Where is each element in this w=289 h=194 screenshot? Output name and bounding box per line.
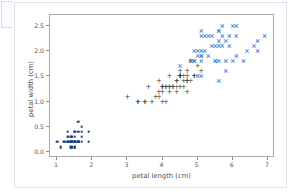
data-point-setosa <box>73 141 76 144</box>
data-point-setosa <box>70 141 73 144</box>
data-point-versicolor: + <box>177 73 183 80</box>
y-tick <box>46 101 49 102</box>
data-point-virginica: × <box>234 33 239 40</box>
data-point-virginica: × <box>223 68 228 75</box>
x-tick <box>126 157 127 160</box>
data-point-virginica: × <box>202 48 207 55</box>
x-tick-label: 1 <box>54 161 58 168</box>
x-tick <box>56 157 57 160</box>
data-point-versicolor: + <box>198 68 204 75</box>
data-point-virginica: × <box>202 33 207 40</box>
data-point-versicolor: + <box>184 78 190 85</box>
data-point-setosa <box>66 141 69 144</box>
data-point-setosa <box>73 141 76 144</box>
data-point-virginica: × <box>188 58 193 65</box>
data-point-setosa <box>73 146 76 149</box>
data-point-versicolor: + <box>156 93 162 100</box>
data-point-versicolor: + <box>188 58 194 65</box>
y-tick-label: 2.5 <box>27 22 44 29</box>
data-point-virginica: × <box>177 63 182 70</box>
data-point-versicolor: + <box>160 83 166 90</box>
notebook-output-cell: ++++++++++++++++++++++++++++++++++++++++… <box>0 0 289 194</box>
data-point-setosa <box>73 146 76 149</box>
data-point-setosa <box>87 141 90 144</box>
data-point-versicolor: + <box>181 83 187 90</box>
data-point-virginica: × <box>227 33 232 40</box>
data-point-virginica: × <box>216 28 221 35</box>
y-tick <box>46 75 49 76</box>
data-point-virginica: × <box>251 43 256 50</box>
data-point-virginica: × <box>195 73 200 80</box>
y-tick-label: 0.0 <box>27 147 44 154</box>
data-point-setosa <box>73 131 76 134</box>
data-point-virginica: × <box>198 53 203 60</box>
data-point-versicolor: + <box>174 88 180 95</box>
data-point-versicolor: + <box>184 68 190 75</box>
data-point-setosa <box>70 141 73 144</box>
x-tick-label: 5 <box>195 161 199 168</box>
data-point-versicolor: + <box>177 73 183 80</box>
data-point-setosa <box>73 141 76 144</box>
data-point-versicolor: + <box>153 93 159 100</box>
data-point-setosa <box>70 136 73 139</box>
data-point-virginica: × <box>198 33 203 40</box>
data-point-virginica: × <box>216 38 221 45</box>
data-point-setosa <box>73 141 76 144</box>
data-point-setosa <box>73 131 76 134</box>
data-point-setosa <box>77 141 80 144</box>
data-point-virginica: × <box>205 53 210 60</box>
data-point-versicolor: + <box>163 83 169 90</box>
y-tick <box>46 50 49 51</box>
data-point-versicolor: + <box>170 83 176 90</box>
data-point-virginica: × <box>195 53 200 60</box>
data-point-versicolor: + <box>188 78 194 85</box>
data-point-virginica: × <box>262 33 267 40</box>
data-point-setosa <box>73 141 76 144</box>
data-point-versicolor: + <box>170 83 176 90</box>
x-tick <box>162 157 163 160</box>
data-point-versicolor: + <box>142 98 148 105</box>
data-point-setosa <box>77 120 80 123</box>
x-tick-label: 2 <box>89 161 93 168</box>
data-point-versicolor: + <box>177 73 183 80</box>
data-point-versicolor: + <box>160 88 166 95</box>
data-point-versicolor: + <box>167 83 173 90</box>
data-point-virginica: × <box>198 28 203 35</box>
data-point-virginica: × <box>223 58 228 65</box>
data-point-virginica: × <box>191 58 196 65</box>
data-point-setosa <box>73 131 76 134</box>
data-point-versicolor: + <box>191 73 197 80</box>
x-tick <box>91 157 92 160</box>
data-point-setosa <box>70 141 73 144</box>
data-point-setosa <box>70 136 73 139</box>
data-point-virginica: × <box>220 43 225 50</box>
data-point-virginica: × <box>241 58 246 65</box>
y-tick <box>46 126 49 127</box>
data-point-setosa <box>63 141 66 144</box>
data-point-setosa <box>66 141 69 144</box>
data-point-virginica: × <box>209 33 214 40</box>
data-point-versicolor: + <box>160 83 166 90</box>
x-axis-label: petal length (cm) <box>49 172 274 180</box>
data-point-setosa <box>66 136 69 139</box>
data-point-setosa <box>77 141 80 144</box>
data-point-setosa <box>66 131 69 134</box>
data-point-versicolor: + <box>184 78 190 85</box>
data-point-versicolor: + <box>135 98 141 105</box>
data-point-virginica: × <box>234 23 239 30</box>
data-point-versicolor: + <box>149 98 155 105</box>
x-tick-label: 6 <box>230 161 234 168</box>
data-point-setosa <box>77 131 80 134</box>
data-point-versicolor: + <box>135 98 141 105</box>
x-tick <box>197 157 198 160</box>
data-point-setosa <box>59 146 62 149</box>
data-point-versicolor: + <box>163 98 169 105</box>
data-point-versicolor: + <box>177 83 183 90</box>
x-tick <box>232 157 233 160</box>
data-point-virginica: × <box>223 38 228 45</box>
data-point-versicolor: + <box>174 83 180 90</box>
data-point-setosa <box>66 141 69 144</box>
data-point-setosa <box>70 141 73 144</box>
data-point-virginica: × <box>220 23 225 30</box>
data-point-setosa <box>70 141 73 144</box>
